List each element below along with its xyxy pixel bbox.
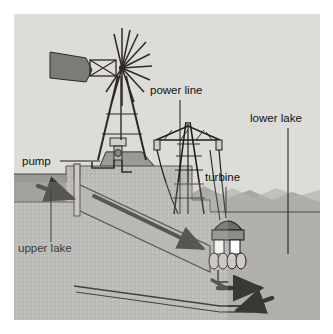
label-upper-lake: upper lake xyxy=(18,242,72,254)
pump-housing-cap xyxy=(110,138,126,146)
label-power-line: power line xyxy=(150,84,202,96)
diagram-svg: pump power line lower lake turbine upper… xyxy=(14,14,320,320)
windmill-hub xyxy=(119,65,125,71)
intake-shaft xyxy=(74,164,80,216)
label-pump: pump xyxy=(22,155,51,167)
pump-impeller xyxy=(115,150,122,157)
figure-pumped-storage-diagram: pump power line lower lake turbine upper… xyxy=(0,0,333,334)
illustration-panel: pump power line lower lake turbine upper… xyxy=(14,14,320,320)
turbine-window-left xyxy=(214,240,224,254)
turbine-housing xyxy=(212,230,244,240)
label-lower-lake: lower lake xyxy=(250,112,302,124)
label-turbine: turbine xyxy=(205,171,240,183)
turbine-window-right xyxy=(230,240,240,254)
